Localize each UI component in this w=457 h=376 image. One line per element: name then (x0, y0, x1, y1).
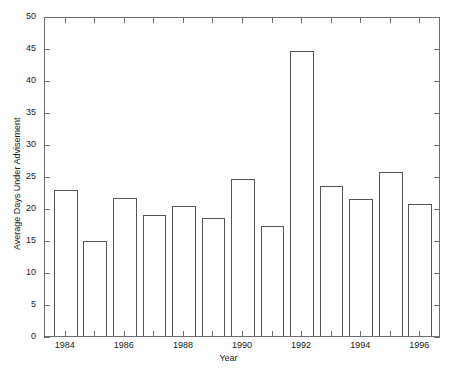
bar (290, 51, 314, 336)
y-tick-right (434, 241, 440, 242)
y-tick-label: 5 (2, 300, 36, 309)
bar (320, 186, 344, 336)
bar (202, 218, 226, 336)
x-tick (183, 331, 184, 337)
x-tick-top (390, 17, 391, 23)
y-tick-right (434, 273, 440, 274)
x-tick-label: 1994 (340, 340, 380, 350)
x-tick-top (301, 17, 302, 23)
x-tick (390, 331, 391, 337)
x-tick (242, 331, 243, 337)
y-tick-right (434, 337, 440, 338)
x-tick (419, 331, 420, 337)
y-tick-label: 50 (2, 12, 36, 21)
bar-chart-figure: 05101520253035404550 1984198619881990199… (0, 0, 457, 376)
x-tick-top (419, 17, 420, 23)
x-tick-top (360, 17, 361, 23)
y-tick-label: 40 (2, 76, 36, 85)
bar (349, 199, 373, 336)
x-tick-label: 1990 (222, 340, 262, 350)
x-tick-top (183, 17, 184, 23)
bar (113, 198, 137, 336)
x-tick-label: 1996 (399, 340, 439, 350)
y-tick (44, 145, 50, 146)
y-tick-right (434, 177, 440, 178)
y-tick-right (434, 113, 440, 114)
y-tick-right (434, 17, 440, 18)
x-tick (153, 331, 154, 337)
x-tick (212, 331, 213, 337)
bar (408, 204, 432, 336)
y-tick-right (434, 49, 440, 50)
y-tick-label: 45 (2, 44, 36, 53)
y-tick-label: 35 (2, 108, 36, 117)
x-tick-top (242, 17, 243, 23)
y-axis-title: Average Days Under Advisement (12, 118, 22, 250)
y-tick (44, 273, 50, 274)
y-tick-right (434, 81, 440, 82)
x-tick (360, 331, 361, 337)
bar (261, 226, 285, 336)
y-tick (44, 177, 50, 178)
x-tick-label: 1988 (163, 340, 203, 350)
x-tick-label: 1992 (281, 340, 321, 350)
y-tick (44, 49, 50, 50)
y-tick (44, 113, 50, 114)
y-tick-right (434, 209, 440, 210)
x-tick-top (272, 17, 273, 23)
x-tick (301, 331, 302, 337)
x-tick-label: 1986 (104, 340, 144, 350)
y-tick (44, 241, 50, 242)
y-tick (44, 81, 50, 82)
x-tick (124, 331, 125, 337)
y-tick (44, 17, 50, 18)
bar (54, 190, 78, 336)
bar-series (45, 18, 439, 336)
x-tick-top (153, 17, 154, 23)
x-tick-top (65, 17, 66, 23)
bar (83, 241, 107, 336)
y-tick-right (434, 305, 440, 306)
bar (143, 215, 167, 336)
x-tick (65, 331, 66, 337)
x-tick (331, 331, 332, 337)
bar (379, 172, 403, 336)
x-tick-top (94, 17, 95, 23)
x-tick-top (124, 17, 125, 23)
y-tick (44, 209, 50, 210)
bar (172, 206, 196, 336)
y-tick-label: 10 (2, 268, 36, 277)
x-axis-title: Year (0, 353, 457, 363)
x-tick-top (331, 17, 332, 23)
y-tick-right (434, 145, 440, 146)
y-tick (44, 337, 50, 338)
y-tick (44, 305, 50, 306)
y-tick-label: 0 (2, 332, 36, 341)
plot-area (44, 17, 440, 337)
x-tick-top (212, 17, 213, 23)
x-tick (94, 331, 95, 337)
bar (231, 179, 255, 336)
x-tick-label: 1984 (45, 340, 85, 350)
x-tick (272, 331, 273, 337)
